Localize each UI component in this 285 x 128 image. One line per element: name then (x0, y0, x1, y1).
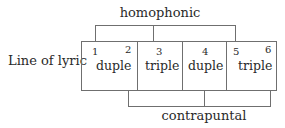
segment-3: 4 duple (183, 41, 226, 90)
segment-meter: duple (188, 58, 223, 73)
segment-number: 2 (125, 44, 131, 55)
segment-number: 6 (265, 44, 271, 55)
segment-number: 3 (156, 46, 162, 57)
segment-meter: duple (96, 58, 131, 73)
homophonic-label: homophonic (118, 5, 202, 20)
segment-2: 3 triple (138, 41, 182, 90)
contrapuntal-label: contrapuntal (158, 108, 250, 123)
segment-number: 5 (233, 46, 239, 57)
segment-1: 1 2 duple (82, 41, 137, 90)
segment-number: 4 (202, 46, 208, 57)
segment-4: 5 6 triple (227, 41, 276, 90)
segment-number: 1 (92, 46, 98, 57)
row-label: Line of lyric (8, 53, 87, 68)
segment-meter: triple (145, 58, 179, 73)
segment-meter: triple (238, 58, 272, 73)
